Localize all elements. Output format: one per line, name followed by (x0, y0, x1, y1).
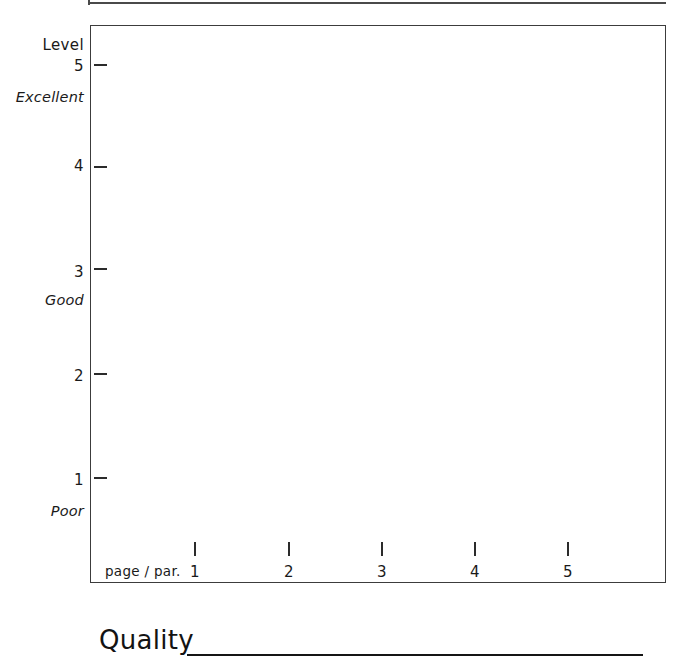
x-tick-mark-2 (288, 542, 290, 556)
caption-label: Quality (99, 627, 194, 653)
x-tick-label-5: 5 (553, 565, 583, 580)
x-tick-label-3: 3 (367, 565, 397, 580)
x-tick-label-4: 4 (460, 565, 490, 580)
caption-fill-in-line[interactable] (187, 654, 643, 656)
y-anchor-label-excellent: Excellent (16, 90, 84, 105)
previous-frame-bottom-edge (88, 2, 666, 4)
y-tick-label-4: 4 (74, 159, 84, 174)
y-tick-mark-4 (94, 166, 107, 168)
y-tick-label-1: 1 (74, 473, 84, 488)
y-anchor-label-poor: Poor (51, 504, 84, 519)
y-tick-label-3: 3 (74, 265, 84, 280)
x-tick-mark-4 (474, 542, 476, 556)
y-tick-mark-3 (94, 268, 107, 270)
x-tick-mark-3 (381, 542, 383, 556)
caption-row: Quality (99, 627, 659, 663)
x-axis-title: page / par. (105, 565, 181, 579)
y-anchor-label-good: Good (45, 293, 84, 308)
x-tick-label-2: 2 (274, 565, 304, 580)
chart-plot-area[interactable] (90, 25, 666, 583)
y-tick-mark-5 (94, 64, 107, 66)
x-tick-mark-5 (567, 542, 569, 556)
y-tick-mark-1 (94, 477, 107, 479)
y-tick-label-5: 5 (74, 59, 84, 74)
y-axis-title: Level (42, 38, 84, 53)
y-tick-label-2: 2 (74, 369, 84, 384)
x-tick-label-1: 1 (180, 565, 210, 580)
y-axis-label-column: Level 5 Excellent 4 3 Good 2 1 Poor (0, 0, 84, 670)
y-tick-mark-2 (94, 373, 107, 375)
x-tick-mark-1 (194, 542, 196, 556)
